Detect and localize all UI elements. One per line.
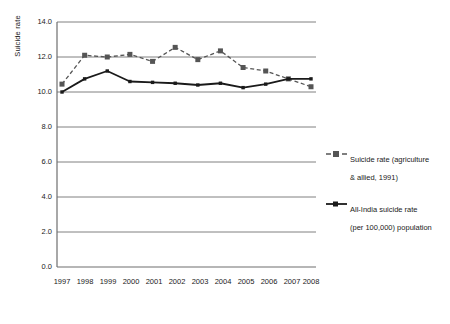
- x-tick-2000: 2000: [123, 278, 140, 286]
- x-tick-1998: 1998: [77, 278, 94, 286]
- data-point-marker: [196, 83, 199, 86]
- x-tick-2002: 2002: [169, 278, 186, 286]
- legend-item-agriculture[interactable]: Suicide rate (agriculture & allied, 1991…: [326, 148, 450, 184]
- data-point-marker: [83, 77, 86, 80]
- x-tick-2001: 2001: [146, 278, 163, 286]
- data-point-marker: [60, 90, 63, 93]
- x-tick-2008: 2008: [303, 278, 320, 286]
- chart-figure: Suicide rate 14.0 12.0 10.0 8.0 6.0 4.0 …: [0, 0, 450, 324]
- data-point-marker: [60, 82, 65, 87]
- data-point-marker: [219, 82, 222, 85]
- x-tick-2003: 2003: [192, 278, 209, 286]
- data-point-marker: [106, 69, 109, 72]
- data-point-marker: [173, 45, 178, 50]
- data-point-marker: [287, 77, 290, 80]
- legend-dashed-line-marker-icon: [326, 150, 347, 158]
- data-point-marker: [263, 69, 268, 74]
- data-point-marker: [195, 57, 200, 62]
- x-tick-2005: 2005: [238, 278, 255, 286]
- x-tick-1997: 1997: [54, 278, 71, 286]
- data-point-marker: [264, 82, 267, 85]
- series-solid-all-india: [60, 69, 312, 93]
- legend-solid-line-marker-icon: [326, 200, 347, 208]
- series-line: [62, 47, 311, 86]
- x-tick-2006: 2006: [261, 278, 278, 286]
- data-point-marker: [241, 65, 246, 70]
- data-point-marker: [218, 48, 223, 53]
- data-point-marker: [82, 53, 87, 58]
- legend-item-all-india[interactable]: All-India suicide rate (per 100,000) pop…: [326, 198, 450, 234]
- data-point-marker: [128, 80, 131, 83]
- data-point-marker: [241, 86, 244, 89]
- axis-lines: [57, 22, 316, 267]
- data-point-marker: [309, 77, 312, 80]
- data-point-marker: [173, 82, 176, 85]
- chart-legend: Suicide rate (agriculture & allied, 1991…: [326, 148, 450, 248]
- data-point-marker: [127, 52, 132, 57]
- series-line: [62, 71, 311, 92]
- x-tick-2004: 2004: [215, 278, 232, 286]
- data-point-marker: [151, 81, 154, 84]
- x-tick-1999: 1999: [100, 278, 117, 286]
- legend-label: All-India suicide rate (per 100,000) pop…: [350, 205, 432, 232]
- data-point-marker: [309, 84, 314, 89]
- data-point-marker: [105, 55, 110, 60]
- data-point-marker: [150, 59, 155, 64]
- legend-label: Suicide rate (agriculture & allied, 1991…: [350, 155, 429, 182]
- x-tick-2007: 2007: [284, 278, 301, 286]
